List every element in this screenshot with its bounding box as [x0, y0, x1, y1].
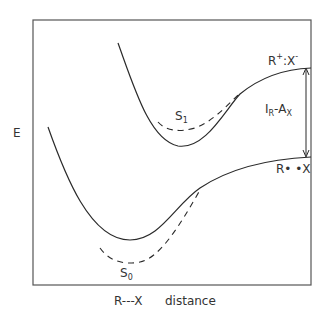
x-axis-label-rx: R---X — [114, 295, 142, 307]
energy-gap-arrow — [303, 68, 309, 157]
s0-label: S0 — [120, 267, 133, 282]
potential-energy-diagram — [0, 0, 327, 318]
gap-label-sub-x: X — [286, 109, 291, 118]
s1-label: S1 — [175, 110, 188, 125]
covalent-state-label: R• •X — [276, 163, 311, 175]
covalent-state-curve — [48, 127, 311, 240]
y-axis-label: E — [13, 127, 21, 139]
ionic-state-label: R+:X- — [268, 54, 298, 67]
energy-gap-label: IR-AX — [265, 103, 292, 118]
ionic-state-x: :X — [283, 54, 295, 68]
ionic-state-r-charge: + — [276, 52, 283, 61]
ionic-state-x-charge: - — [295, 52, 298, 61]
x-axis-label-distance: distance — [165, 295, 216, 307]
